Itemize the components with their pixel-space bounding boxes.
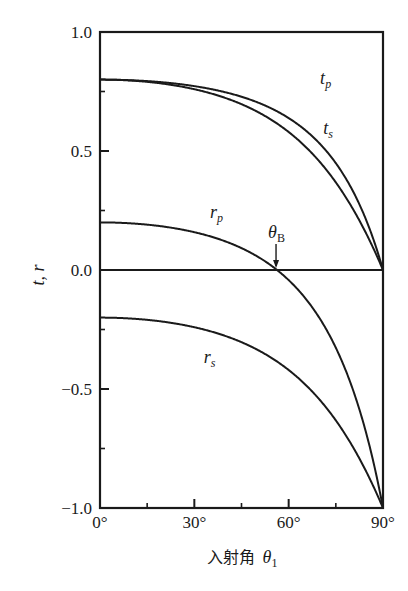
y-tick-label: 0.5 <box>71 142 92 161</box>
y-axis-title: t, r <box>28 264 48 286</box>
y-tick-label: −1.0 <box>61 499 92 518</box>
brewster-label: θB <box>268 222 285 245</box>
y-tick-label: 0.0 <box>71 261 92 280</box>
y-tick-label: 1.0 <box>71 23 92 42</box>
curves <box>100 80 383 508</box>
x-axis-ticks: 0°30°60°90° <box>92 499 395 532</box>
curve-ts <box>100 80 383 270</box>
x-tick-label: 60° <box>277 513 301 532</box>
x-axis-title-subscript: 1 <box>271 556 277 570</box>
x-axis-title: 入射角θ1 <box>207 547 278 570</box>
x-axis-title-text: 入射角 <box>207 548 255 567</box>
curve-label-rs: rs <box>204 347 216 370</box>
curve-tp <box>100 80 383 270</box>
x-tick-label: 0° <box>92 513 107 532</box>
y-tick-label: −0.5 <box>61 380 92 399</box>
brewster-annotation: θB <box>268 222 285 268</box>
curve-labels: tptsrprs <box>204 68 334 369</box>
curve-label-tp: tp <box>320 68 331 91</box>
fresnel-coefficients-chart: 1.00.50.0−0.5−1.0 0°30°60°90° tptsrprs θ… <box>0 0 408 591</box>
curve-label-ts: ts <box>323 118 333 141</box>
x-tick-label: 90° <box>371 513 395 532</box>
curve-label-rp: rp <box>210 202 223 225</box>
x-axis-title-symbol: θ <box>263 547 272 567</box>
curve-rp <box>100 222 383 508</box>
x-tick-label: 30° <box>182 513 206 532</box>
curve-rs <box>100 318 383 508</box>
